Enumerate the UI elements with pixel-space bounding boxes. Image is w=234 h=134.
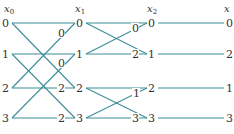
node-x0-2: 2 xyxy=(2,82,9,95)
node-x-1: 2 xyxy=(226,48,233,61)
node-x0-3: 3 xyxy=(2,112,9,125)
node-x2-2: 2 xyxy=(148,82,155,95)
weight-s1-c: 2 xyxy=(58,82,65,95)
weight-s2-d: 3 xyxy=(132,112,139,125)
weight-s2-a: 0 xyxy=(132,22,139,35)
weight-s1-a: 0 xyxy=(58,27,65,40)
fft-butterfly-diagram: x0 x1 x2 x 0 0 2 2 xyxy=(0,0,234,134)
column-x1-nodes: 0 1 2 3 xyxy=(76,17,83,125)
node-x-0: 0 xyxy=(226,17,233,30)
stage3-edges xyxy=(158,23,224,118)
node-x1-1: 1 xyxy=(76,48,83,61)
node-x1-2: 2 xyxy=(76,82,83,95)
weight-s2-b: 2 xyxy=(132,48,139,61)
weight-s1-d: 2 xyxy=(58,112,65,125)
node-x2-3: 3 xyxy=(148,112,155,125)
node-x0-1: 1 xyxy=(2,48,9,61)
weight-s1-b: 0 xyxy=(58,57,65,70)
node-x1-3: 3 xyxy=(76,112,83,125)
node-x1-0: 0 xyxy=(76,17,83,30)
column-x0-nodes: 0 1 2 3 xyxy=(2,17,9,125)
node-x-2: 1 xyxy=(226,82,233,95)
stage2-weights: 0 2 1 3 xyxy=(131,22,140,125)
node-x2-1: 1 xyxy=(148,48,155,61)
header-x0: x0 xyxy=(4,3,14,16)
stage1-edges xyxy=(12,23,75,118)
node-x-3: 3 xyxy=(226,112,233,125)
weight-s2-c: 1 xyxy=(133,87,140,100)
header-x: x xyxy=(224,3,230,14)
stage2-edges xyxy=(86,23,147,118)
column-x-nodes: 0 2 1 3 xyxy=(226,17,233,125)
header-x1: x1 xyxy=(75,3,85,16)
node-x2-0: 0 xyxy=(148,17,155,30)
column-x2-nodes: 0 1 2 3 xyxy=(148,17,155,125)
header-x2: x2 xyxy=(147,3,157,16)
node-x0-0: 0 xyxy=(2,17,9,30)
